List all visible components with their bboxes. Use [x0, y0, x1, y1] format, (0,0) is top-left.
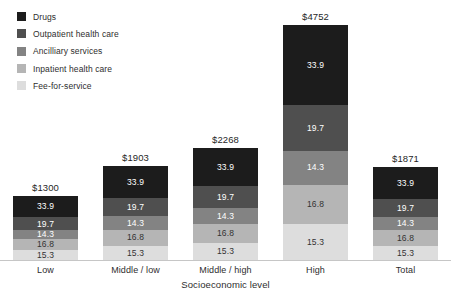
bar-segment-low-ancilliary-services: 14.3	[13, 230, 78, 239]
segment-value-label: 14.3	[37, 230, 54, 239]
plot-area: 33.919.714.316.815.3$1300Low33.919.714.3…	[0, 0, 451, 293]
bar-segment-middle-low-outpatient-health-care: 19.7	[103, 198, 168, 217]
bar-segment-high-outpatient-health-care: 19.7	[283, 105, 348, 151]
chart-canvas: DrugsOutpatient health careAncilliary se…	[0, 0, 451, 293]
x-tick-label-middle-low: Middle / low	[90, 265, 181, 275]
segment-value-label: 19.7	[217, 193, 234, 202]
bar-segment-middle-low-fee-for-service: 15.3	[103, 246, 168, 260]
bar-middle-low: 33.919.714.316.815.3	[103, 166, 168, 260]
segment-value-label: 19.7	[307, 124, 324, 133]
bar-segment-high-fee-for-service: 15.3	[283, 224, 348, 260]
bar-segment-total-inpatient-health-care: 16.8	[373, 230, 438, 246]
bar-segment-middle-low-inpatient-health-care: 16.8	[103, 230, 168, 246]
bar-segment-high-ancilliary-services: 14.3	[283, 151, 348, 185]
bar-segment-middle-high-ancilliary-services: 14.3	[193, 208, 258, 224]
segment-value-label: 15.3	[397, 249, 414, 258]
bar-segment-middle-high-outpatient-health-care: 19.7	[193, 186, 258, 208]
segment-value-label: 16.8	[397, 234, 414, 243]
segment-value-label: 15.3	[127, 249, 144, 258]
bar-segment-high-inpatient-health-care: 16.8	[283, 185, 348, 224]
segment-value-label: 14.3	[307, 163, 324, 172]
bar-segment-middle-low-ancilliary-services: 14.3	[103, 216, 168, 229]
bar-high: 33.919.714.316.815.3	[283, 25, 348, 260]
segment-value-label: 33.9	[127, 178, 144, 187]
bar-total-label: $1300	[3, 182, 88, 193]
x-tick-label-total: Total	[360, 265, 451, 275]
bar-total-label: $4752	[273, 11, 358, 22]
segment-value-label: 16.8	[307, 200, 324, 209]
x-tick-label-middle-high: Middle / high	[180, 265, 271, 275]
bar-segment-total-ancilliary-services: 14.3	[373, 217, 438, 230]
bar-segment-middle-high-fee-for-service: 15.3	[193, 243, 258, 260]
segment-value-label: 15.3	[37, 251, 54, 260]
segment-value-label: 14.3	[127, 219, 144, 228]
bar-segment-middle-high-inpatient-health-care: 16.8	[193, 224, 258, 243]
segment-value-label: 15.3	[307, 238, 324, 247]
bar-segment-total-drugs: 33.9	[373, 167, 438, 198]
segment-value-label: 33.9	[307, 61, 324, 70]
bar-segment-total-outpatient-health-care: 19.7	[373, 199, 438, 217]
bar-segment-middle-high-drugs: 33.9	[193, 148, 258, 186]
bar-segment-low-outpatient-health-care: 19.7	[13, 217, 78, 230]
segment-value-label: 16.8	[217, 229, 234, 238]
bar-middle-high: 33.919.714.316.815.3	[193, 148, 258, 260]
segment-value-label: 33.9	[397, 179, 414, 188]
segment-value-label: 33.9	[37, 202, 54, 211]
segment-value-label: 19.7	[127, 203, 144, 212]
x-tick-label-low: Low	[0, 265, 91, 275]
x-tick-label-high: High	[270, 265, 361, 275]
bar-total: 33.919.714.316.815.3	[373, 167, 438, 260]
bar-segment-total-fee-for-service: 15.3	[373, 246, 438, 260]
bar-total-label: $1903	[93, 152, 178, 163]
segment-value-label: 14.3	[217, 212, 234, 221]
x-axis-line	[0, 260, 451, 261]
x-axis-title: Socioeconomic level	[0, 279, 451, 290]
segment-value-label: 33.9	[217, 163, 234, 172]
bar-segment-high-drugs: 33.9	[283, 25, 348, 105]
bar-total-label: $2268	[183, 134, 268, 145]
segment-value-label: 19.7	[397, 204, 414, 213]
bar-low: 33.919.714.316.815.3	[13, 196, 78, 260]
bar-segment-low-inpatient-health-care: 16.8	[13, 239, 78, 250]
bar-total-label: $1871	[363, 153, 448, 164]
segment-value-label: 16.8	[37, 240, 54, 249]
segment-value-label: 15.3	[217, 247, 234, 256]
segment-value-label: 19.7	[37, 220, 54, 229]
segment-value-label: 16.8	[127, 233, 144, 242]
bar-segment-low-drugs: 33.9	[13, 196, 78, 218]
segment-value-label: 14.3	[397, 219, 414, 228]
bar-segment-low-fee-for-service: 15.3	[13, 250, 78, 260]
bar-segment-middle-low-drugs: 33.9	[103, 166, 168, 198]
